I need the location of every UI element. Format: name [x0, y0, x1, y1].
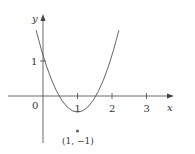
x-axis-arrow-icon — [167, 94, 174, 99]
parabola-curve — [36, 30, 119, 112]
tick-label-x1: 1 — [75, 103, 81, 114]
tick-label-y1: 1 — [31, 56, 37, 67]
tick-label-x3: 3 — [144, 103, 150, 114]
y-axis-arrow-icon — [41, 14, 46, 21]
origin-label: 0 — [32, 100, 38, 111]
vertex-point — [76, 129, 79, 132]
tick-label-x2: 2 — [109, 103, 115, 114]
vertex-label: (1, −1) — [62, 136, 94, 146]
x-axis-label: x — [167, 102, 173, 113]
y-axis-label: y — [31, 13, 38, 24]
parabola-chart: y x 0 1 2 3 1 (1, −1) — [0, 0, 195, 154]
